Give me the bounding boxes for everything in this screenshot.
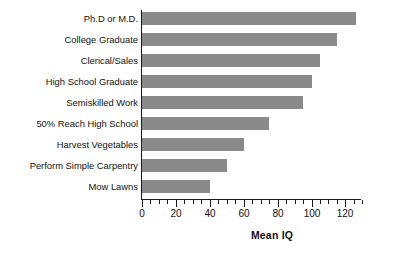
- x-tick-minor: [320, 200, 321, 204]
- bar-fill: [142, 180, 210, 193]
- x-tick-minor: [303, 200, 304, 204]
- plot-area: [142, 10, 414, 199]
- x-tick-minor: [354, 200, 355, 204]
- bar: [142, 33, 337, 46]
- x-tick-major: [244, 200, 245, 207]
- category-label: Harvest Vegetables: [0, 138, 138, 151]
- x-tick-minor: [218, 200, 219, 204]
- x-tick-minor: [159, 200, 160, 204]
- category-label: 50% Reach High School: [0, 117, 138, 130]
- category-label: Ph.D or M.D.: [0, 12, 138, 25]
- x-tick-minor: [184, 200, 185, 204]
- bar-chart-figure: Ph.D or M.D.College GraduateClerical/Sal…: [0, 0, 414, 257]
- bar-fill: [142, 54, 320, 67]
- y-axis-line: [141, 10, 142, 200]
- x-tick-major: [312, 200, 313, 207]
- x-tick-minor: [150, 200, 151, 204]
- category-axis-labels: Ph.D or M.D.College GraduateClerical/Sal…: [0, 10, 138, 199]
- x-tick-minor: [261, 200, 262, 204]
- category-label: High School Graduate: [0, 75, 138, 88]
- bar: [142, 54, 320, 67]
- category-label: Perform Simple Carpentry: [0, 159, 138, 172]
- category-label: Mow Lawns: [0, 180, 138, 193]
- bar-fill: [142, 96, 303, 109]
- x-tick-minor: [193, 200, 194, 204]
- x-tick-minor: [235, 200, 236, 204]
- bar-fill: [142, 12, 356, 25]
- bar: [142, 180, 210, 193]
- x-tick-major: [278, 200, 279, 207]
- x-tick-minor: [201, 200, 202, 204]
- bar-fill: [142, 159, 227, 172]
- x-tick-minor: [227, 200, 228, 204]
- x-tick-major: [210, 200, 211, 207]
- bar-fill: [142, 75, 312, 88]
- x-tick-minor: [286, 200, 287, 204]
- x-tick-major: [345, 200, 346, 207]
- bar-fill: [142, 138, 244, 151]
- x-tick-major: [176, 200, 177, 207]
- x-tick-minor: [328, 200, 329, 204]
- x-tick-minor: [362, 200, 363, 204]
- bar-fill: [142, 33, 337, 46]
- category-label: College Graduate: [0, 33, 138, 46]
- bar: [142, 75, 312, 88]
- category-label: Clerical/Sales: [0, 54, 138, 67]
- bar: [142, 117, 269, 130]
- category-label: Semiskilled Work: [0, 96, 138, 109]
- x-tick-label: 120: [325, 208, 365, 220]
- x-tick-minor: [295, 200, 296, 204]
- bar: [142, 138, 244, 151]
- x-tick-major: [142, 200, 143, 207]
- bar: [142, 159, 227, 172]
- x-tick-minor: [252, 200, 253, 204]
- x-tick-minor: [167, 200, 168, 204]
- bar-fill: [142, 117, 269, 130]
- bar: [142, 12, 356, 25]
- bar: [142, 96, 303, 109]
- x-tick-minor: [269, 200, 270, 204]
- x-axis-title: Mean IQ: [142, 229, 402, 241]
- x-tick-minor: [337, 200, 338, 204]
